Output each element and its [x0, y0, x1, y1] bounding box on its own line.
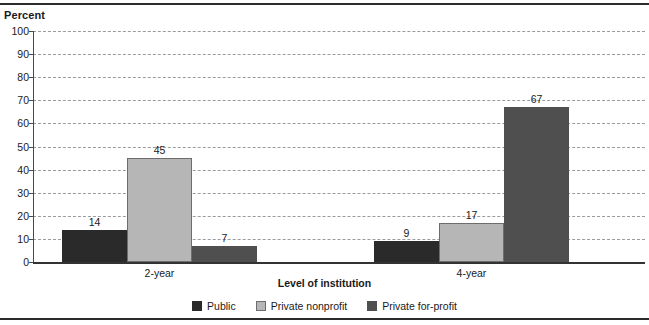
- y-tick-label-70: 70: [2, 95, 29, 106]
- gridline-100: [33, 31, 645, 32]
- gridline-90: [33, 54, 645, 55]
- legend-label: Public: [207, 301, 236, 312]
- y-tick-label-20: 20: [2, 211, 29, 222]
- bar-value-label: 45: [127, 145, 192, 156]
- legend-label: Private for-profit: [382, 301, 457, 312]
- x-axis-title: Level of institution: [0, 277, 649, 289]
- y-tick-label-90: 90: [2, 49, 29, 60]
- bar-value-label: 67: [504, 94, 569, 105]
- y-tick-label-0: 0: [2, 257, 29, 268]
- gridline-80: [33, 77, 645, 78]
- legend-item-public[interactable]: Public: [192, 301, 236, 312]
- y-tick-label-40: 40: [2, 164, 29, 175]
- y-tick-label-80: 80: [2, 72, 29, 83]
- bar-value-label: 14: [62, 217, 127, 228]
- plot-area: 1445791767 2-year4-year: [33, 31, 645, 263]
- y-tick-label-10: 10: [2, 234, 29, 245]
- legend-item-nonprofit[interactable]: Private nonprofit: [256, 301, 347, 312]
- bar-2-year-nonprofit: [127, 158, 192, 262]
- chart-legend: PublicPrivate nonprofitPrivate for-profi…: [0, 301, 649, 312]
- bar-2-year-public: [62, 230, 127, 262]
- bar-value-label: 7: [192, 233, 257, 244]
- bar-value-label: 17: [439, 210, 504, 221]
- legend-item-forprofit[interactable]: Private for-profit: [367, 301, 457, 312]
- x-axis-line: [33, 262, 645, 264]
- y-tick-label-60: 60: [2, 118, 29, 129]
- legend-swatch-nonprofit-icon: [256, 301, 266, 311]
- y-tick-label-30: 30: [2, 187, 29, 198]
- bar-4-year-nonprofit: [439, 223, 504, 262]
- legend-swatch-forprofit-icon: [367, 301, 377, 311]
- bar-4-year-forprofit: [504, 107, 569, 262]
- y-axis-line: [33, 31, 34, 263]
- y-tick-label-100: 100: [2, 26, 29, 37]
- legend-label: Private nonprofit: [271, 301, 347, 312]
- y-tick-label-50: 50: [2, 141, 29, 152]
- legend-swatch-public-icon: [192, 301, 202, 311]
- bar-2-year-forprofit: [192, 246, 257, 262]
- bar-4-year-public: [374, 241, 439, 262]
- bar-value-label: 9: [374, 228, 439, 239]
